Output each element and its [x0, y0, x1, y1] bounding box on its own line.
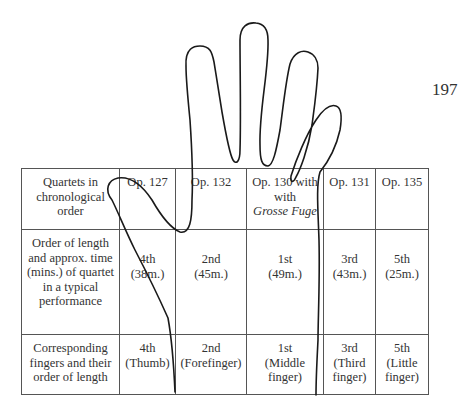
page-number: 197 [432, 80, 458, 100]
table-cell: Op. 135 [376, 169, 429, 230]
table-cell: 1st(49m.) [247, 230, 324, 335]
table-cell: 4th(Thumb) [120, 335, 176, 395]
grosse-fuge-title: Grosse Fuge [253, 204, 317, 218]
quartet-finger-table: Quartets in chronological order Op. 127 … [21, 168, 429, 395]
table-cell: 4th(38m.) [120, 230, 176, 335]
table-row-quartets: Quartets in chronological order Op. 127 … [22, 169, 429, 230]
table-row-fingers: Corresponding fingers and their order of… [22, 335, 429, 395]
table-cell: Op. 131 [324, 169, 376, 230]
table-cell: 2nd(45m.) [176, 230, 247, 335]
row-label: Corresponding fingers and their order of… [22, 335, 120, 395]
row-label: Quartets in chronological order [22, 169, 120, 230]
table-cell: Op. 127 [120, 169, 176, 230]
table-cell: 2nd(Forefinger) [176, 335, 247, 395]
row-label: Order of length and approx. time (mins.)… [22, 230, 120, 335]
table-cell: 1st(Middlefinger) [247, 335, 324, 395]
table-row-length: Order of length and approx. time (mins.)… [22, 230, 429, 335]
table-cell: 5th(25m.) [376, 230, 429, 335]
table-cell: Op. 130 with with Grosse Fuge [247, 169, 324, 230]
table-cell: 5th(Littlefinger) [376, 335, 429, 395]
table-cell: 3rd(Thirdfinger) [324, 335, 376, 395]
table-cell: 3rd(43m.) [324, 230, 376, 335]
table-cell: Op. 132 [176, 169, 247, 230]
